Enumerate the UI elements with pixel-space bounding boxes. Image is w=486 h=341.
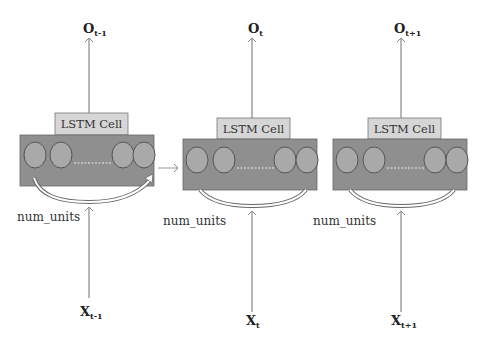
unit-circle [424, 147, 446, 173]
unit-circle [50, 142, 72, 168]
input-label-1: Xt-1 [80, 305, 103, 320]
unit-circle [274, 147, 296, 173]
unit-circle [363, 147, 385, 173]
lstm-cell-2 [183, 38, 318, 312]
num-units-label-3: num_units [313, 214, 376, 228]
unit-circle [213, 147, 235, 173]
output-label-3: Ot+1 [394, 22, 421, 37]
unit-circle [24, 142, 46, 168]
cell-label-3: LSTM Cell [368, 122, 441, 136]
cell-label-1: LSTM Cell [55, 117, 128, 131]
recurrent-loop-3 [350, 190, 454, 206]
input-label-2: Xt [246, 314, 260, 329]
recurrent-loop-2 [200, 190, 306, 206]
input-label-3: Xt+1 [391, 314, 417, 329]
cell-label-2: LSTM Cell [217, 122, 290, 136]
lstm-cell-1 [20, 38, 155, 298]
unit-circle [446, 147, 468, 173]
unit-circle [296, 147, 318, 173]
lstm-diagram-canvas [0, 0, 486, 341]
unit-circle [336, 147, 358, 173]
unit-circle [112, 142, 134, 168]
output-label-2: Ot [248, 22, 263, 37]
num-units-label-2: num_units [163, 214, 226, 228]
num-units-label-1: num_units [17, 210, 80, 224]
unit-circle [133, 142, 155, 168]
output-label-1: Ot-1 [83, 22, 107, 37]
lstm-cell-3 [333, 38, 468, 312]
unit-circle [186, 147, 208, 173]
